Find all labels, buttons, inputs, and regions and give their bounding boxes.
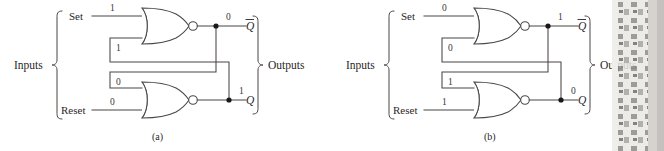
reset-label-a: Reset: [61, 104, 85, 116]
nor-gate-upper-b: [474, 8, 521, 44]
scan-edge-artifact: [612, 0, 664, 151]
junction-qbar-a: [213, 23, 218, 28]
svg-text:Q: Q: [578, 20, 587, 32]
q-output-label-b: Q: [578, 94, 587, 106]
nor-bubble-lower-a: [189, 96, 198, 105]
reset-value-b: 1: [442, 97, 447, 107]
feedback-lower-value-a: 0: [116, 77, 121, 87]
reset-label-b: Reset: [393, 104, 417, 116]
caption-b: (b): [484, 131, 496, 143]
set-label-b: Set: [401, 10, 415, 22]
qbar-output-label-a: Q: [246, 20, 256, 33]
nor-bubble-lower-b: [521, 96, 530, 105]
outputs-label-a: Outputs: [268, 59, 305, 72]
svg-text:Q: Q: [246, 20, 255, 32]
set-value-b: 0: [442, 3, 447, 13]
outputs-brace-b: [585, 16, 595, 114]
inputs-brace-a: [52, 11, 62, 119]
q-value-b: 0: [571, 86, 576, 96]
sr-latch-figure: Inputs Outputs Set Reset: [0, 0, 664, 151]
inputs-label-a: Inputs: [14, 59, 43, 72]
panel-b: Inputs Outputs Set Reset 0: [346, 3, 637, 143]
q-value-a: 1: [239, 86, 244, 96]
qbar-output-label-b: Q: [578, 20, 588, 33]
feedback-upper-value-b: 0: [448, 43, 453, 53]
reset-value-a: 0: [110, 97, 115, 107]
q-output-label-a: Q: [246, 94, 255, 106]
inputs-brace-b: [384, 11, 394, 119]
qbar-value-b: 1: [558, 12, 563, 22]
feedback-upper-value-a: 1: [116, 43, 121, 53]
set-label-a: Set: [69, 10, 83, 22]
inputs-label-b: Inputs: [346, 59, 375, 72]
panel-a: Inputs Outputs Set Reset: [14, 3, 305, 143]
caption-a: (a): [152, 131, 163, 143]
nor-gate-upper-a: [142, 8, 189, 44]
nor-gate-lower-b: [474, 82, 521, 118]
nor-bubble-upper-a: [189, 22, 198, 31]
junction-q-b: [558, 97, 563, 102]
outputs-brace-a: [253, 16, 263, 114]
qbar-value-a: 0: [226, 12, 231, 22]
junction-qbar-b: [545, 23, 550, 28]
set-value-a: 1: [110, 3, 115, 13]
nor-gate-lower-a: [142, 82, 189, 118]
nor-bubble-upper-b: [521, 22, 530, 31]
feedback-lower-value-b: 1: [448, 77, 453, 87]
junction-q-a: [226, 97, 231, 102]
